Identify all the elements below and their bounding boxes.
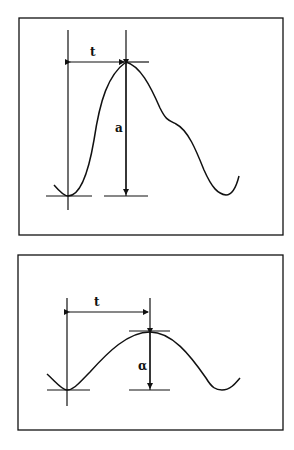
top-time-label: t — [90, 45, 96, 59]
diagram-canvas: t a t α — [0, 0, 294, 450]
bottom-amplitude-label: α — [138, 359, 147, 373]
top-amplitude-label: a — [115, 121, 123, 135]
top-waveform — [54, 62, 239, 196]
bottom-time-label: t — [94, 295, 100, 309]
top-frame — [19, 18, 283, 235]
top-figure: t a — [19, 18, 283, 235]
bottom-figure: t α — [18, 255, 283, 430]
